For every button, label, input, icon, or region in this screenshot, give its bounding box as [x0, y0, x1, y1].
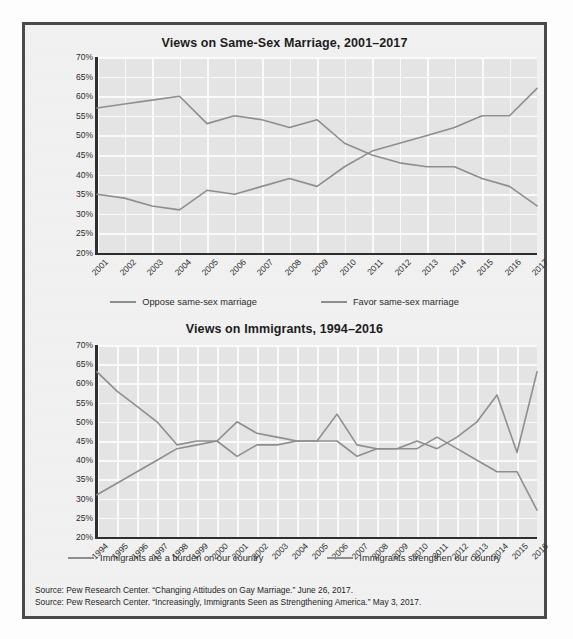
y-tick-label: 55% — [76, 111, 93, 121]
y-tick-label: 20% — [76, 248, 93, 258]
y-tick-label: 35% — [76, 474, 93, 484]
y-tick-label: 35% — [76, 189, 93, 199]
chart2-title: Views on Immigrants, 1994–2016 — [25, 322, 544, 336]
y-tick-label: 65% — [76, 359, 93, 369]
source-notes: Source: Pew Research Center. “Changing A… — [35, 584, 535, 608]
legend-line-swatch — [110, 301, 136, 303]
y-tick-label: 30% — [76, 494, 93, 504]
chart1-legend: Oppose same-sex marriageFavor same-sex m… — [25, 297, 544, 307]
legend-label: Immigrants are a burden on our country — [100, 553, 263, 563]
y-tick-label: 20% — [76, 532, 93, 542]
y-tick-label: 25% — [76, 513, 93, 523]
legend-item: Favor same-sex marriage — [321, 297, 459, 307]
chart-immigrants: Views on Immigrants, 1994–2016 20%25%30%… — [25, 319, 544, 577]
legend-label: Favor same-sex marriage — [353, 297, 459, 307]
series-line — [97, 372, 537, 495]
legend-line-swatch — [321, 301, 347, 303]
y-tick-label: 65% — [76, 72, 93, 82]
chart2-series-lines — [97, 345, 537, 537]
chart2-plot-area — [97, 345, 537, 537]
y-tick-label: 25% — [76, 228, 93, 238]
chart2-legend: Immigrants are a burden on our countryIm… — [25, 553, 544, 563]
chart1-plot-area — [97, 57, 537, 253]
y-tick-label: 55% — [76, 398, 93, 408]
figure-frame: Views on Same-Sex Marriage, 2001–2017 20… — [22, 22, 547, 619]
chart-same-sex-marriage: Views on Same-Sex Marriage, 2001–2017 20… — [25, 29, 544, 319]
source-line-2: Source: Pew Research Center. “Increasing… — [35, 596, 535, 608]
y-tick-label: 60% — [76, 91, 93, 101]
figure-page: Views on Same-Sex Marriage, 2001–2017 20… — [0, 0, 573, 639]
y-tick-label: 60% — [76, 378, 93, 388]
legend-item: Oppose same-sex marriage — [110, 297, 257, 307]
legend-item: Immigrants strengthen our country — [327, 553, 501, 563]
y-tick-label: 70% — [76, 52, 93, 62]
legend-item: Immigrants are a burden on our country — [68, 553, 263, 563]
series-line — [97, 88, 537, 210]
source-line-1: Source: Pew Research Center. “Changing A… — [35, 584, 535, 596]
y-tick-label: 45% — [76, 436, 93, 446]
y-tick-label: 40% — [76, 170, 93, 180]
chart1-series-lines — [97, 57, 537, 253]
y-tick-label: 50% — [76, 130, 93, 140]
y-tick-label: 40% — [76, 455, 93, 465]
legend-label: Immigrants strengthen our country — [359, 553, 501, 563]
y-tick-label: 45% — [76, 150, 93, 160]
series-line — [97, 96, 537, 206]
y-tick-label: 50% — [76, 417, 93, 427]
legend-label: Oppose same-sex marriage — [142, 297, 257, 307]
legend-line-swatch — [68, 557, 94, 559]
y-tick-label: 70% — [76, 340, 93, 350]
legend-line-swatch — [327, 557, 353, 559]
chart1-title: Views on Same-Sex Marriage, 2001–2017 — [25, 36, 544, 50]
y-tick-label: 30% — [76, 209, 93, 219]
